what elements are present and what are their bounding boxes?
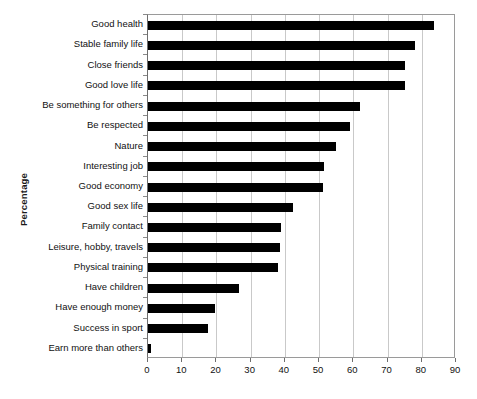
x-axis-tick (318, 358, 319, 362)
category-label: Earn more than others (30, 343, 143, 353)
bar (148, 142, 336, 151)
category-label: Good love life (30, 80, 143, 90)
gridline (422, 15, 423, 357)
bar-chart: Percentage Good healthStable family life… (0, 0, 477, 399)
category-label: Physical training (30, 262, 143, 272)
category-label: Close friends (30, 60, 143, 70)
bar (148, 263, 278, 272)
bar (148, 183, 323, 192)
bar (148, 223, 281, 232)
category-label: Be something for others (30, 100, 143, 110)
x-axis-tick-label: 40 (279, 364, 290, 375)
x-axis-tick (352, 358, 353, 362)
x-axis-tick (147, 358, 148, 362)
bar (148, 203, 293, 212)
category-label: Success in sport (30, 323, 143, 333)
x-axis-tick (284, 358, 285, 362)
bar (148, 102, 360, 111)
x-axis-tick (181, 358, 182, 362)
category-label: Stable family life (30, 39, 143, 49)
bar (148, 21, 434, 30)
bar (148, 122, 350, 131)
x-axis-tick-label: 10 (176, 364, 187, 375)
x-axis-tick-label: 0 (144, 364, 149, 375)
x-axis-tick-label: 50 (313, 364, 324, 375)
category-label: Be respected (30, 120, 143, 130)
category-label: Good economy (30, 181, 143, 191)
category-label: Leisure, hobby, travels (30, 242, 143, 252)
x-axis-tick (455, 358, 456, 362)
y-axis-title-label: Percentage (19, 173, 30, 226)
category-label: Have children (30, 282, 143, 292)
x-axis-tick-label: 70 (381, 364, 392, 375)
x-axis-tick (215, 358, 216, 362)
category-label: Family contact (30, 221, 143, 231)
category-label: Nature (30, 141, 143, 151)
x-axis-ticks: 0102030405060708090 (147, 358, 455, 386)
bar (148, 344, 151, 353)
category-label: Good sex life (30, 201, 143, 211)
plot-area (147, 14, 455, 358)
category-label-list: Good healthStable family lifeClose frien… (30, 14, 143, 358)
bar (148, 61, 405, 70)
x-axis-tick-label: 20 (210, 364, 221, 375)
bar (148, 304, 215, 313)
category-label: Have enough money (30, 302, 143, 312)
category-label: Interesting job (30, 161, 143, 171)
x-axis-tick-label: 30 (244, 364, 255, 375)
x-axis-tick-label: 80 (415, 364, 426, 375)
bar (148, 324, 208, 333)
bar (148, 81, 405, 90)
x-axis-tick (387, 358, 388, 362)
bar (148, 162, 324, 171)
bar (148, 243, 280, 252)
bar (148, 284, 239, 293)
bar (148, 41, 415, 50)
category-label: Good health (30, 19, 143, 29)
x-axis-tick (421, 358, 422, 362)
x-axis-tick-label: 60 (347, 364, 358, 375)
x-axis-tick (250, 358, 251, 362)
x-axis-tick-label: 90 (450, 364, 461, 375)
